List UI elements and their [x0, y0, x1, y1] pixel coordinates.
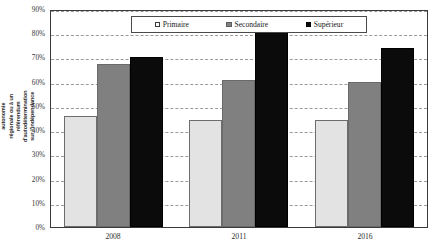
y-axis-tick-label: 0% [35, 224, 45, 232]
bar-superieur-2011 [255, 31, 288, 227]
legend-swatch-icon [155, 22, 161, 28]
bar-secondaire-2016 [348, 82, 381, 227]
y-axis-tick-label: 80% [32, 30, 45, 38]
bar-chart: % soutien à une plus grande autonomie ré… [0, 0, 435, 250]
y-axis-tick-label: 50% [32, 103, 45, 111]
bar-group-2016 [302, 11, 427, 227]
bar-primaire-2016 [315, 120, 348, 227]
bar-superieur-2008 [130, 57, 163, 227]
chart-legend: PrimaireSecondaireSupérieur [131, 16, 367, 33]
bar-secondaire-2008 [97, 64, 130, 228]
bar-group-2008 [51, 11, 176, 227]
bar-primaire-2008 [64, 116, 97, 227]
legend-label: Secondaire [234, 20, 268, 29]
y-axis-tick-label: 10% [32, 200, 45, 208]
y-axis-tick-label: 90% [32, 6, 45, 14]
bar-superieur-2016 [381, 48, 414, 227]
bar-group-2011 [176, 11, 301, 227]
legend-swatch-icon [306, 22, 312, 28]
legend-swatch-icon [226, 22, 232, 28]
bar-primaire-2011 [189, 120, 222, 227]
plot-area: PrimaireSecondaireSupérieur [50, 10, 428, 228]
legend-item-primaire: Primaire [155, 20, 189, 29]
x-axis-tick-labels: 200820112016 [50, 232, 428, 246]
x-axis-tick-label-2008: 2008 [50, 232, 176, 246]
legend-label: Supérieur [314, 20, 344, 29]
y-axis-tick-label: 70% [32, 54, 45, 62]
bars-layer [51, 11, 427, 227]
legend-item-superieur: Supérieur [306, 20, 344, 29]
y-axis-tick-label: 60% [32, 79, 45, 87]
x-axis-tick-label-2016: 2016 [302, 232, 428, 246]
y-axis-tick-label: 40% [32, 127, 45, 135]
bar-secondaire-2011 [222, 80, 255, 227]
legend-label: Primaire [163, 20, 189, 29]
y-axis-tick-label: 20% [32, 176, 45, 184]
x-axis-tick-label-2011: 2011 [176, 232, 302, 246]
y-axis-tick-labels: 0%10%20%30%40%50%60%70%80%90% [18, 10, 48, 228]
legend-item-secondaire: Secondaire [226, 20, 268, 29]
y-axis-tick-label: 30% [32, 151, 45, 159]
